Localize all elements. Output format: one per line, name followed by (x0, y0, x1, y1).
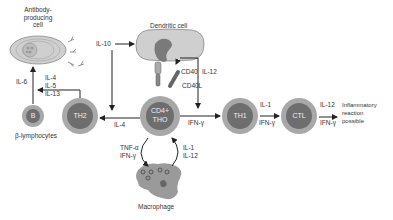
ifn-gamma-label: IFN-γ (188, 119, 204, 127)
cd40-label: CD40 (181, 68, 198, 76)
il5-label: IL-5 (45, 82, 56, 90)
ctl-label: CTL (287, 112, 311, 120)
th1-ctl-ifn-label: IFN-γ (259, 119, 275, 127)
outcome-line1: Inflammatory (342, 102, 377, 110)
il4-label-th2: IL-4 (45, 74, 56, 82)
cd40l-label: CD40L (182, 82, 202, 90)
b-cell-label: B (27, 112, 39, 120)
macrophage-cell (136, 163, 181, 199)
ctl-ifn-label: IFN-γ (320, 119, 336, 127)
dendritic-cell (136, 29, 204, 62)
antibody-producing-cell (10, 36, 66, 64)
outcome-line3: possible (342, 118, 364, 126)
immune-response-diagram (0, 0, 393, 220)
il6-label: IL-6 (16, 78, 27, 86)
cd4-label: CD4+ (146, 107, 174, 115)
macrophage-il1-label: IL-1 (183, 144, 194, 152)
th0-label: THO (146, 116, 174, 124)
tnf-alpha-label: TNF-α (120, 144, 139, 152)
antibody-icons (68, 37, 84, 67)
b-lymphocytes-caption: β-lymphocytes (15, 132, 57, 140)
il12-dc-label: IL-12 (202, 68, 217, 76)
macrophage-in-ifn-label: IFN-γ (120, 152, 136, 160)
dendritic-cell-label: Dendritic cell (150, 22, 187, 30)
antibody-cell-label: Antibody- producing cell (20, 6, 56, 29)
macrophage-il12-label: IL-12 (183, 152, 198, 160)
il4-label: IL-4 (114, 121, 125, 129)
th1-ctl-il1-label: IL-1 (260, 101, 271, 109)
il10-label: IL-10 (96, 40, 111, 48)
outcome-line2: reaction (342, 110, 363, 118)
th2-label: TH2 (68, 112, 92, 120)
cd40-receptor (155, 62, 178, 86)
th1-label: TH1 (228, 112, 252, 120)
il13-label: IL-13 (45, 90, 60, 98)
ctl-il12-label: IL-12 (320, 101, 335, 109)
macrophage-label: Macrophage (138, 203, 174, 211)
